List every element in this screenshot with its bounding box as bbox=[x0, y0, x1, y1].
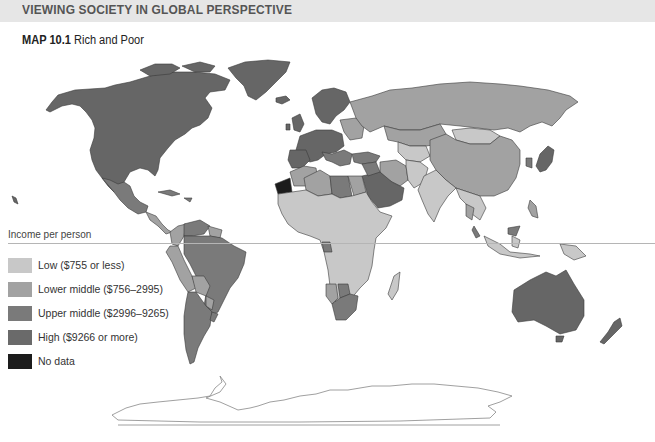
region-papua bbox=[560, 244, 586, 260]
legend-label: No data bbox=[38, 355, 75, 367]
legend-swatch-upper-middle bbox=[8, 306, 32, 321]
legend-item-lower-middle: Lower middle ($756–2995) bbox=[8, 280, 169, 298]
legend-item-low: Low ($755 or less) bbox=[8, 256, 169, 274]
region-korea bbox=[526, 158, 532, 168]
region-russia bbox=[350, 82, 578, 132]
region-indonesia bbox=[484, 236, 540, 258]
region-north-america bbox=[46, 72, 230, 192]
region-madagascar bbox=[388, 272, 400, 300]
legend-item-high: High ($9266 or more) bbox=[8, 328, 169, 346]
region-greenland bbox=[228, 60, 290, 100]
legend-label: Upper middle ($2996–9265) bbox=[38, 307, 169, 319]
region-venezuela bbox=[184, 220, 210, 236]
region-uk bbox=[286, 114, 304, 132]
region-western-sahara bbox=[275, 178, 292, 194]
legend-label: High ($9266 or more) bbox=[38, 331, 138, 343]
region-new-zealand bbox=[600, 318, 622, 344]
legend: Income per person Low ($755 or less) Low… bbox=[8, 229, 169, 376]
legend-heading: Income per person bbox=[8, 229, 169, 240]
region-hawaii bbox=[12, 196, 18, 204]
region-philippines bbox=[528, 200, 538, 218]
region-iceland bbox=[276, 96, 290, 104]
legend-swatch-high bbox=[8, 330, 32, 345]
region-tasmania bbox=[556, 336, 564, 342]
legend-item-no-data: No data bbox=[8, 352, 169, 370]
region-japan bbox=[536, 146, 554, 172]
region-iberia bbox=[288, 150, 310, 168]
region-antarctica bbox=[112, 376, 512, 422]
legend-swatch-low bbox=[8, 258, 32, 273]
legend-swatch-no-data bbox=[8, 354, 32, 369]
legend-swatch-lower-middle bbox=[8, 282, 32, 297]
legend-label: Low ($755 or less) bbox=[38, 259, 124, 271]
region-mexico bbox=[102, 178, 148, 214]
region-australia bbox=[512, 270, 584, 334]
legend-item-upper-middle: Upper middle ($2996–9265) bbox=[8, 304, 169, 322]
region-scandinavia bbox=[312, 88, 350, 124]
region-caribbean bbox=[158, 190, 192, 202]
legend-label: Lower middle ($756–2995) bbox=[38, 283, 163, 295]
